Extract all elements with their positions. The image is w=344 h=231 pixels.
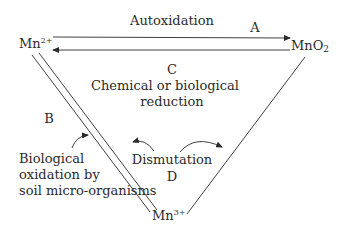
label-chemical-biological: Chemical or biological bbox=[91, 78, 239, 93]
node-mn2: Mn2+ bbox=[19, 36, 52, 51]
curved-arrow-dismutation-left-icon bbox=[133, 141, 154, 151]
label-dismutation: Dismutation bbox=[132, 152, 213, 167]
curved-arrow-biological-icon bbox=[72, 135, 88, 148]
node-mn3: Mn3+ bbox=[152, 208, 185, 223]
label-letter-a: A bbox=[249, 20, 260, 35]
label-oxidation-by: oxidation by bbox=[19, 167, 100, 182]
label-letter-b: B bbox=[44, 111, 54, 126]
curved-arrow-dismutation-right-icon bbox=[180, 142, 222, 152]
label-biological: Biological bbox=[19, 151, 84, 166]
arrow-autoxidation bbox=[53, 37, 290, 38]
label-soil-micro-organisms: soil micro-organisms bbox=[19, 183, 156, 198]
manganese-cycle-diagram: Mn2+ MnO2 Mn3+ Autoxidation A C Chemical… bbox=[0, 0, 344, 231]
label-reduction: reduction bbox=[140, 94, 204, 109]
label-letter-d: D bbox=[167, 169, 177, 184]
label-letter-c: C bbox=[167, 62, 177, 77]
label-autoxidation: Autoxidation bbox=[129, 13, 215, 28]
node-mno2: MnO2 bbox=[291, 38, 329, 54]
